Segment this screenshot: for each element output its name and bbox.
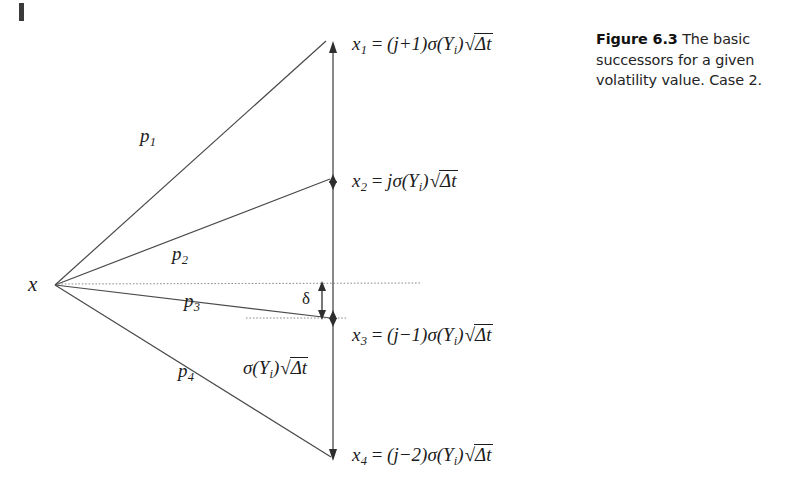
apex-node-label: x [28,274,37,295]
branch-label-p3: p3 [184,291,200,313]
axis-marker-x3-upper-icon [329,310,337,319]
branch-label-p2: p2 [172,244,188,266]
figure-caption-title: Figure 6.3 [596,31,678,47]
branch-line-p2 [55,179,330,285]
axis-marker-x3-lower-icon [329,318,337,327]
equation-x3: x3 = (j−1)σ(Yi)√Δt [352,324,493,347]
equation-x4: x4 = (j−2)σ(Yi)√Δt [352,444,493,467]
delta-arrow-up-icon [318,281,326,291]
branch-label-p1: p1 [140,126,156,148]
branch-label-p4: p4 [178,361,194,383]
dotted-reference-line-apex [58,283,420,284]
axis-arrow-down-icon [329,449,337,461]
delta-label: δ [302,290,310,307]
axis-marker-x2-lower-icon [329,181,337,190]
axis-arrow-up-icon [329,41,337,53]
equation-x1: x1 = (j+1)σ(Yi)√Δt [352,33,493,56]
figure-caption: Figure 6.3 The basic successors for a gi… [596,29,804,91]
spacing-annotation: σ(Yi)√Δt [243,357,308,380]
branch-line-p1 [55,41,326,285]
figure-page: x p1 p2 p3 p4 δ x1 = (j+1)σ(Yi)√Δt x2 = … [0,0,811,488]
equation-x2: x2 = jσ(Yi)√Δt [352,170,458,193]
